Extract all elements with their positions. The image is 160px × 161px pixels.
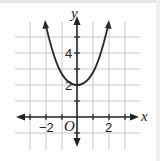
coordinate-plane: y x O −2 2 4 2 xyxy=(0,0,160,161)
x-tick-label-2: 2 xyxy=(105,120,112,135)
y-tick-label-2: 2 xyxy=(65,78,72,93)
y-axis-down-arrow-icon xyxy=(74,138,81,147)
curve-right-arrow-icon xyxy=(105,20,112,29)
x-tick-label-neg2: −2 xyxy=(39,120,54,135)
x-axis-right-arrow-icon xyxy=(130,114,139,121)
x-axis-left-arrow-icon xyxy=(16,114,25,121)
curve-left-arrow-icon xyxy=(43,20,50,29)
origin-label: O xyxy=(64,118,75,134)
y-axis-label: y xyxy=(69,5,78,21)
y-tick-label-4: 4 xyxy=(65,46,72,61)
x-axis-label: x xyxy=(140,108,148,124)
